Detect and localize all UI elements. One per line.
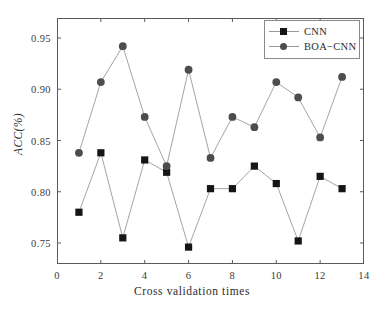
x-axis-title: Cross validation times bbox=[0, 285, 384, 297]
chart-figure: 0.750.800.850.900.95 02468101214 ACC(%) … bbox=[0, 0, 384, 311]
y-tick-label: 0.80 bbox=[8, 186, 51, 197]
x-tick-label: 0 bbox=[54, 270, 60, 281]
x-tick-label: 8 bbox=[230, 270, 236, 281]
x-tick-label: 4 bbox=[142, 270, 148, 281]
legend-item-boa-cnn: BOA−CNN bbox=[269, 39, 355, 54]
circle-marker-icon bbox=[269, 40, 299, 53]
y-tick-label: 0.75 bbox=[8, 238, 51, 249]
x-tick-label: 14 bbox=[358, 270, 369, 281]
legend-label: BOA−CNN bbox=[299, 41, 356, 52]
y-tick-label: 0.95 bbox=[8, 33, 51, 44]
x-tick-label: 2 bbox=[98, 270, 104, 281]
x-tick-label: 12 bbox=[314, 270, 325, 281]
legend-label: CNN bbox=[299, 26, 327, 37]
series-lines bbox=[79, 46, 342, 247]
legend-item-cnn: CNN bbox=[269, 24, 355, 39]
chart-legend: CNN BOA−CNN bbox=[264, 20, 360, 59]
x-tick-label: 6 bbox=[186, 270, 192, 281]
x-tick-label: 10 bbox=[271, 270, 282, 281]
square-marker-icon bbox=[269, 25, 299, 38]
y-axis-title: ACC(%) bbox=[12, 94, 24, 174]
